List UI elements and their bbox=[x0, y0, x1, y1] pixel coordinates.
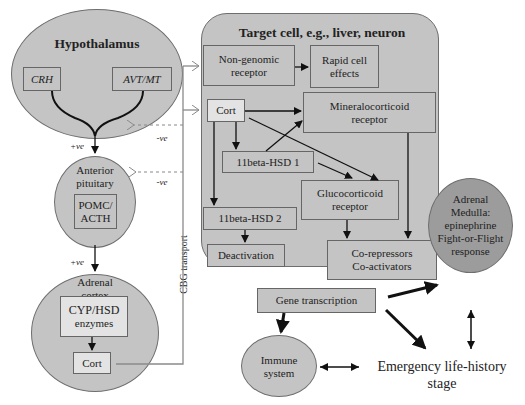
crh-box: CRH bbox=[23, 67, 61, 91]
glucocorticoid-receptor-box: Glucocorticoid receptor bbox=[301, 180, 399, 220]
hypothalamus-negative-feedback-label: -ve bbox=[152, 132, 172, 145]
adrenal-cort-box: Cort bbox=[73, 352, 111, 374]
co-regulators-box: Co-repressors Co-activators bbox=[327, 240, 437, 280]
pituitary-positive-label: +ve bbox=[64, 256, 90, 269]
adrenal-medulla-label: Adrenal Medulla: epinephrine Fight-or-Fl… bbox=[428, 193, 513, 258]
hypothalamus-title: Hypothalamus bbox=[40, 37, 154, 50]
cbg-transport-label: CBG transport bbox=[177, 210, 190, 320]
pituitary-negative-feedback-label: -ve bbox=[152, 176, 172, 189]
rapid-cell-effects-box: Rapid cell effects bbox=[310, 45, 379, 88]
anterior-pituitary-title: Anterior pituitary bbox=[60, 164, 130, 190]
avt-mt-box: AVT/MT bbox=[112, 67, 172, 91]
gene-transcription-box: Gene transcription bbox=[257, 288, 376, 313]
immune-system-label: Immune system bbox=[241, 354, 317, 380]
pomc-acth-box: POMC/ ACTH bbox=[74, 194, 117, 229]
mineralocorticoid-receptor-box: Mineralocorticoid receptor bbox=[303, 92, 436, 133]
hypothalamus-positive-label: +ve bbox=[64, 140, 90, 153]
11beta-hsd2-box: 11beta-HSD 2 bbox=[203, 207, 297, 230]
11beta-hsd1-box: 11beta-HSD 1 bbox=[222, 151, 314, 173]
cyp-hsd-enzymes-box: CYP/HSD enzymes bbox=[60, 296, 128, 337]
target-cort-box: Cort bbox=[207, 99, 245, 122]
non-genomic-receptor-box: Non-genomic receptor bbox=[203, 45, 295, 86]
deactivation-box: Deactivation bbox=[207, 244, 285, 267]
emergency-life-history-stage: Emergency life-history stage bbox=[362, 358, 522, 392]
target-cell-title: Target cell, e.g., liver, neuron bbox=[214, 26, 430, 39]
